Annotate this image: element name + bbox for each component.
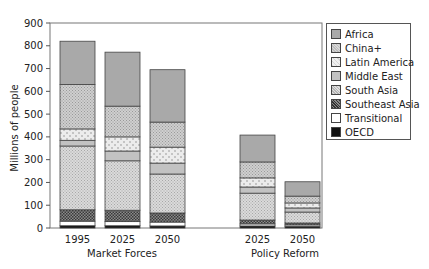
bar-2025: [105, 52, 140, 228]
segment-mideast: [150, 163, 185, 174]
segment-latam: [60, 129, 95, 140]
segment-seasia: [150, 213, 185, 222]
segment-seasia: [60, 210, 95, 221]
y-axis-title: Millions of people: [9, 84, 20, 171]
group-label: Market Forces: [87, 248, 157, 259]
x-tick-label: 2050: [290, 234, 315, 245]
legend-swatch: [331, 85, 341, 95]
legend-swatch: [331, 99, 341, 109]
legend-item-oecd: OECD: [331, 125, 410, 139]
segment-latam: [285, 203, 320, 208]
legend-item-latam: Latin America: [331, 55, 410, 69]
y-tick-label: 100: [24, 200, 43, 211]
segment-sasia: [285, 212, 320, 223]
segment-sasia: [240, 193, 275, 220]
legend-swatch: [331, 113, 341, 123]
y-tick-label: 400: [24, 131, 43, 142]
segment-china: [285, 196, 320, 203]
segment-china: [240, 162, 275, 178]
segment-china: [105, 106, 140, 137]
y-tick-label: 600: [24, 86, 43, 97]
segment-latam: [150, 147, 185, 163]
segment-sasia: [150, 174, 185, 213]
y-tick-label: 200: [24, 177, 43, 188]
bar-2025: [240, 135, 275, 228]
segment-trans: [60, 221, 95, 226]
segment-sasia: [105, 161, 140, 210]
legend-label: Transitional: [345, 113, 402, 124]
segment-africa: [285, 182, 320, 196]
legend-label: OECD: [345, 127, 374, 138]
legend-label: Latin America: [345, 57, 414, 68]
y-tick-label: 0: [37, 223, 43, 234]
bar-2050: [150, 70, 185, 228]
y-tick-label: 800: [24, 40, 43, 51]
segment-mideast: [285, 208, 320, 212]
legend-label: Africa: [345, 29, 374, 40]
legend-swatch: [331, 43, 341, 53]
x-tick-label: 2050: [155, 234, 180, 245]
segment-africa: [60, 41, 95, 84]
segment-china: [150, 122, 185, 147]
legend-item-china: China+: [331, 41, 410, 55]
segment-latam: [240, 178, 275, 187]
y-tick-label: 700: [24, 63, 43, 74]
segment-mideast: [240, 187, 275, 193]
legend-item-sasia: South Asia: [331, 83, 410, 97]
segment-trans: [150, 222, 185, 226]
legend-swatch: [331, 29, 341, 39]
segment-africa: [240, 135, 275, 162]
legend-item-mideast: Middle East: [331, 69, 410, 83]
legend-label: Middle East: [345, 71, 403, 82]
x-tick-label: 2025: [110, 234, 135, 245]
x-axis-labels: 19952025205020252050Market ForcesPolicy …: [65, 234, 319, 259]
legend-item-trans: Transitional: [331, 111, 410, 125]
segment-latam: [105, 137, 140, 151]
legend-swatch: [331, 71, 341, 81]
segment-sasia: [60, 146, 95, 210]
segment-mideast: [60, 140, 95, 146]
segment-seasia: [240, 220, 275, 224]
segment-seasia: [105, 210, 140, 221]
segment-mideast: [105, 151, 140, 161]
y-tick-label: 500: [24, 109, 43, 120]
segment-trans: [105, 222, 140, 226]
legend-swatch: [331, 127, 341, 137]
x-tick-label: 2025: [245, 234, 270, 245]
group-label: Policy Reform: [251, 248, 319, 259]
legend-item-seasia: Southeast Asia: [331, 97, 410, 111]
y-tick-label: 900: [24, 18, 43, 29]
bar-1995: [60, 41, 95, 228]
segment-africa: [150, 70, 185, 122]
legend-label: South Asia: [345, 85, 398, 96]
legend-label: China+: [345, 43, 382, 54]
y-tick-label: 300: [24, 154, 43, 165]
legend-swatch: [331, 57, 341, 67]
bars: [60, 41, 320, 228]
segment-africa: [105, 52, 140, 106]
legend-item-africa: Africa: [331, 27, 410, 41]
segment-china: [60, 85, 95, 129]
bar-2050: [285, 182, 320, 228]
x-tick-label: 1995: [65, 234, 90, 245]
legend: AfricaChina+Latin AmericaMiddle EastSout…: [326, 23, 411, 140]
legend-label: Southeast Asia: [345, 99, 420, 110]
